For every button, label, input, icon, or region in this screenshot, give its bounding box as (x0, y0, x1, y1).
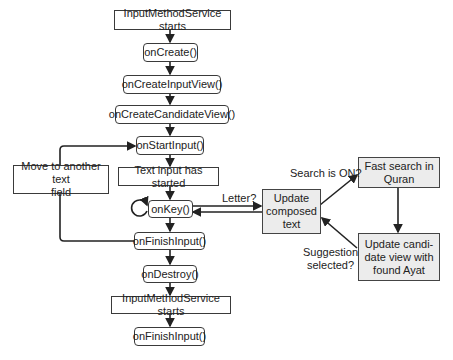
node-oncreate-inputview: onCreateInputView() (123, 75, 221, 94)
node-fast-search: Fast search in Quran (358, 157, 440, 188)
node-oncreate-candidateview: onCreateCandidateView() (115, 105, 229, 124)
node-ims-start-1: InputMethodService starts (114, 10, 231, 30)
node-fast-line-1: Fast search in (364, 160, 433, 173)
node-move-line-2: field (51, 186, 71, 199)
node-cand-line-3: found Ayat (373, 264, 425, 277)
node-fast-line-2: Quran (384, 173, 415, 186)
node-cand-line-1: Update candi- (365, 238, 434, 251)
node-move-to-field: Move to another text field (13, 165, 109, 194)
edge-finish-movefield (60, 194, 134, 241)
node-oncreate: onCreate() (143, 43, 198, 62)
node-ims-start-2: InputMethodService starts (111, 296, 231, 314)
node-onfinishinput-2: onFinishInput() (134, 327, 205, 346)
node-update-line-1: Update (274, 192, 309, 205)
flowchart: InputMethodService starts onCreate() onC… (0, 0, 453, 360)
node-onkey: onKey() (148, 200, 193, 218)
node-ondestroy: onDestroy() (143, 265, 197, 283)
node-update-line-2: composed (266, 205, 317, 218)
edge-candidate-update (322, 218, 357, 248)
node-update-composed: Update composed text (262, 189, 321, 234)
node-update-candidate: Update candi- date view with found Ayat (358, 233, 440, 281)
node-onstartinput: onStartInput() (136, 136, 204, 155)
edge-label-search-on: Search is ON? (290, 167, 362, 180)
edge-label-letter: Letter? (222, 192, 256, 205)
node-update-line-3: text (283, 218, 301, 231)
node-text-input-started: Text input has started (118, 167, 219, 186)
node-move-line-1: Move to another text (17, 160, 105, 186)
edge-label-suggestion: Suggestion selected? (303, 246, 358, 272)
node-onfinishinput-1: onFinishInput() (134, 232, 205, 250)
edge-label-suggestion-2: selected? (303, 259, 358, 272)
node-cand-line-2: date view with (364, 251, 433, 264)
edge-onkey-selfloop (132, 200, 147, 216)
edge-label-suggestion-1: Suggestion (303, 246, 358, 259)
